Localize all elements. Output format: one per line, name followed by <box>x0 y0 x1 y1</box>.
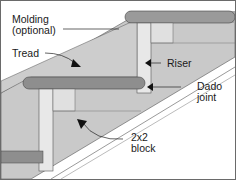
molding-label: Molding (optional) <box>12 14 56 36</box>
upper-tread-nose <box>125 11 235 23</box>
dado-joint-label: Dado joint <box>197 81 222 103</box>
stair-diagram: Molding (optional) Tread Riser Dado join… <box>0 0 236 180</box>
lower-block <box>53 89 75 111</box>
riser-label: Riser <box>167 58 192 69</box>
lower-tread-nose <box>23 77 145 89</box>
tread-label: Tread <box>12 48 39 59</box>
bottom-tread <box>1 151 43 163</box>
block-label: 2x2 block <box>131 132 156 154</box>
upper-block <box>151 23 173 43</box>
